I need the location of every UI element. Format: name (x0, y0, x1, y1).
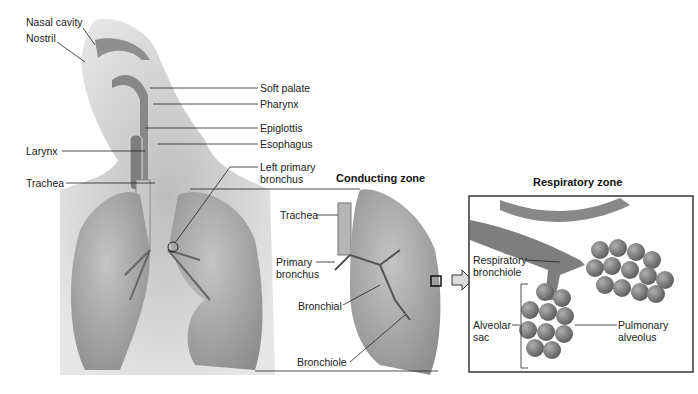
label-epiglottis: Epiglottis (260, 122, 303, 134)
label-pulmonary-alveolus-1: Pulmonary (618, 319, 668, 331)
label-primary-bronchus-1: Primary (276, 256, 312, 268)
label-larynx: Larynx (26, 145, 58, 157)
label-left-primary-bronchus-1: Left primary (260, 161, 315, 173)
respiratory-zone-panel (469, 196, 693, 372)
label-pulmonary-alveolus-2: alveolus (618, 331, 657, 343)
label-trachea: Trachea (26, 177, 64, 189)
label-alveolar-sac-1: Alveolar (473, 319, 511, 331)
label-pharynx: Pharynx (260, 98, 299, 110)
label-esophagus: Esophagus (260, 138, 313, 150)
label-bronchial: Bronchial (298, 300, 342, 312)
label-nasal-cavity: Nasal cavity (26, 16, 83, 28)
label-respiratory-bronchiole-2: bronchiole (473, 266, 521, 278)
label-left-primary-bronchus-2: bronchus (260, 173, 303, 185)
label-bronchiole: Bronchiole (297, 356, 347, 368)
conducting-zone-lung (335, 189, 441, 375)
conducting-zone-title: Conducting zone (336, 172, 425, 184)
label-soft-palate: Soft palate (260, 82, 310, 94)
respiratory-zone-title: Respiratory zone (533, 176, 622, 188)
respiratory-system-illustration (0, 0, 698, 394)
label-nostril: Nostril (26, 32, 56, 44)
label-respiratory-bronchiole-1: Respiratory (473, 254, 527, 266)
label-alveolar-sac-2: sac (473, 331, 489, 343)
label-primary-bronchus-2: bronchus (276, 268, 319, 280)
label-trachea-conducting: Trachea (280, 209, 318, 221)
